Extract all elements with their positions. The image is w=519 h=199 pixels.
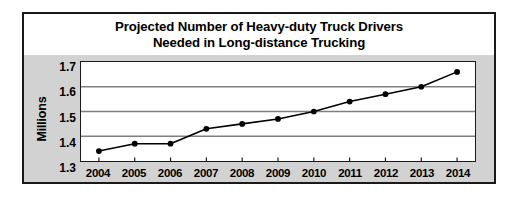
- data-point-2004: [96, 148, 102, 154]
- data-point-2012: [383, 91, 389, 97]
- x-axis-tick-2013: 2013: [402, 166, 442, 180]
- y-axis-tick-1.6: 1.6: [50, 86, 76, 98]
- data-point-2014: [454, 69, 460, 75]
- x-axis-tick-2007: 2007: [186, 166, 226, 180]
- x-axis-tick-2008: 2008: [222, 166, 262, 180]
- data-point-2011: [347, 99, 353, 105]
- x-axis-tick-2004: 2004: [78, 166, 118, 180]
- data-point-2005: [132, 141, 138, 147]
- x-axis-tick-2009: 2009: [258, 166, 298, 180]
- y-axis-tick-1.4: 1.4: [50, 137, 76, 149]
- y-axis-tick-labels: 1.31.41.51.61.7: [50, 61, 76, 162]
- y-axis-tick-1.3: 1.3: [50, 162, 76, 174]
- y-axis-title: Millions: [34, 79, 50, 159]
- plot-surround: Millions 1.31.41.51.61.7 200420052006200…: [24, 55, 494, 182]
- chart-title-line-1: Projected Number of Heavy-duty Truck Dri…: [115, 19, 403, 35]
- x-axis-tick-2012: 2012: [366, 166, 406, 180]
- chart-title-block: Projected Number of Heavy-duty Truck Dri…: [24, 14, 494, 55]
- data-point-2006: [168, 141, 174, 147]
- y-axis-tick-1.7: 1.7: [50, 61, 76, 73]
- plot-svg: [81, 62, 475, 161]
- data-point-2007: [203, 126, 209, 132]
- y-axis-title-label: Millions: [35, 97, 49, 142]
- x-axis-tick-2005: 2005: [114, 166, 154, 180]
- data-point-2008: [239, 121, 245, 127]
- x-axis-tick-2011: 2011: [330, 166, 370, 180]
- x-axis-tick-2010: 2010: [294, 166, 334, 180]
- plot-area: [80, 61, 476, 162]
- data-point-2010: [311, 109, 317, 115]
- chart-title-line-2: Needed in Long-distance Trucking: [153, 35, 365, 51]
- chart-figure: Projected Number of Heavy-duty Truck Dri…: [22, 12, 496, 184]
- y-axis-tick-1.5: 1.5: [50, 112, 76, 124]
- x-axis-tick-labels: 2004200520062007200820092010201120122013…: [80, 166, 476, 182]
- data-point-2013: [418, 84, 424, 90]
- data-point-2009: [275, 116, 281, 122]
- x-axis-tick-2014: 2014: [438, 166, 478, 180]
- x-axis-tick-2006: 2006: [150, 166, 190, 180]
